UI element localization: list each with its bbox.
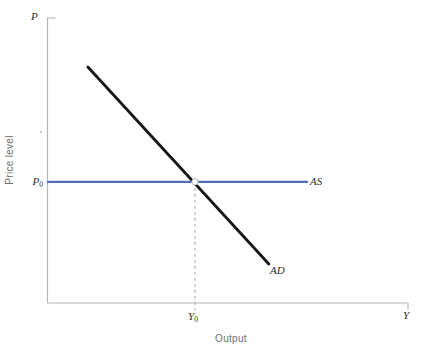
as-ad-figure: P Price level P0 AS AD Y0 Y Output bbox=[0, 0, 423, 357]
y-axis-title: Price level bbox=[3, 135, 16, 184]
x-axis-title: Output bbox=[215, 332, 247, 345]
ad-curve bbox=[88, 67, 269, 264]
as-curve-label: AS bbox=[310, 175, 322, 188]
p0-subscript: 0 bbox=[39, 180, 43, 189]
equilibrium-point-marker bbox=[192, 179, 198, 185]
plot-layer bbox=[48, 67, 307, 310]
axes bbox=[48, 18, 409, 310]
ad-curve-label: AD bbox=[270, 264, 285, 277]
p0-tick-label: P0 bbox=[22, 175, 43, 191]
y0-subscript: 0 bbox=[194, 315, 198, 324]
y-axis-end-label: P bbox=[31, 10, 38, 23]
x-axis-end-label: Y bbox=[403, 309, 409, 322]
diagram-canvas bbox=[0, 0, 423, 357]
y0-tick-label: Y0 bbox=[188, 310, 198, 326]
stray-speck bbox=[40, 131, 42, 133]
